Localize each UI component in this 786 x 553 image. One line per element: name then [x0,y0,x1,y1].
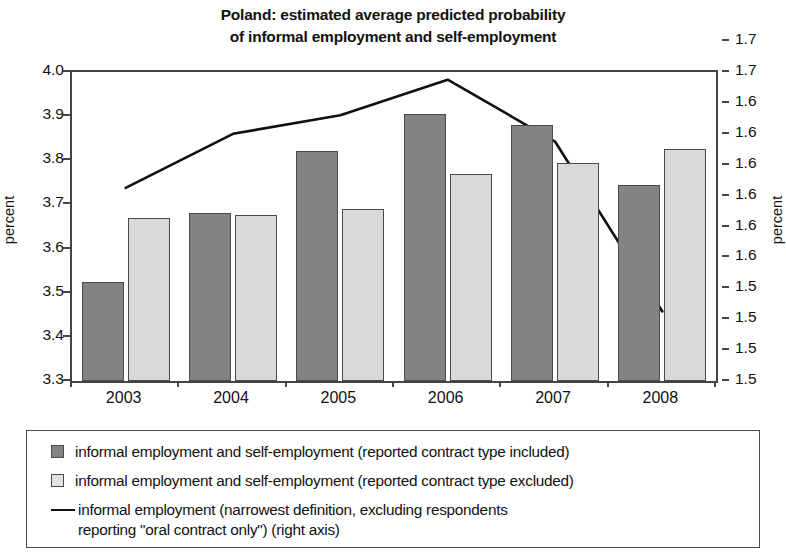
y-tick-label-left: 3.7 [20,195,64,209]
y-tick-label-left: 4.0 [20,63,64,77]
legend-label-narrowest-line-1: informal employment (narrowest definitio… [78,501,508,518]
y-tick-mark-right [722,163,729,165]
bar-2006-series-2 [450,174,492,381]
y-tick-mark-right [722,255,729,257]
y-tick-mark-left [63,202,70,204]
plot-area [70,70,718,383]
x-tick-label-2005: 2005 [278,389,398,407]
y-tick-mark-left [63,335,70,337]
legend-item-contract-excluded: informal employment and self-employment … [51,471,574,491]
y-tick-mark-left [63,158,70,160]
x-tick-mark [70,381,72,387]
bar-2007-series-2 [557,163,599,382]
y-axis-left-ticks: 3.33.43.53.63.73.83.94.0 [14,70,64,383]
legend-swatch-dark-icon [51,445,64,458]
y-tick-label-right: 1.6 [735,125,779,139]
legend-swatch-light-icon [51,474,64,487]
y-tick-label-right: 1.6 [735,187,779,201]
x-tick-mark [392,381,394,387]
legend-label-contract-excluded: informal employment and self-employment … [75,471,574,491]
x-tick-label-2007: 2007 [493,389,613,407]
bar-2008-series-2 [664,149,706,381]
y-tick-mark-right [722,317,729,319]
y-tick-label-right: 1.5 [735,341,779,355]
x-tick-label-2006: 2006 [386,389,506,407]
bar-2005-series-1 [296,151,338,381]
chart-title-line-1: Poland: estimated average predicted prob… [221,6,566,23]
y-tick-label-left: 3.4 [20,328,64,342]
chart-legend: informal employment and self-employment … [26,430,760,548]
y-tick-label-left: 3.3 [20,372,64,386]
y-tick-label-right: 1.6 [735,156,779,170]
y-axis-right-ticks: 1.51.51.51.51.61.61.61.61.61.61.71.7 [724,70,768,383]
legend-item-narrowest-definition: informal employment (narrowest definitio… [51,500,508,540]
legend-label-contract-included: informal employment and self-employment … [75,442,569,462]
x-tick-mark [607,381,609,387]
plot-inner [72,72,716,381]
y-tick-mark-right [722,132,729,134]
legend-label-narrowest-definition: informal employment (narrowest definitio… [78,500,508,540]
x-tick-mark [285,381,287,387]
x-tick-label-2003: 2003 [64,389,184,407]
y-tick-mark-right [722,194,729,196]
bar-2007-series-1 [511,125,553,381]
y-tick-label-right: 1.5 [735,279,779,293]
bar-2003-series-2 [128,218,170,381]
bar-2003-series-1 [82,282,124,381]
x-tick-label-2004: 2004 [171,389,291,407]
bar-2005-series-2 [342,209,384,381]
y-tick-label-right: 1.7 [735,32,779,46]
x-tick-mark [177,381,179,387]
chart-figure: Poland: estimated average predicted prob… [0,0,786,553]
chart-title-line-2: of informal employment and self-employme… [0,26,786,48]
bar-2006-series-1 [404,114,446,381]
y-tick-label-left: 3.6 [20,240,64,254]
x-tick-mark [714,381,716,387]
y-tick-mark-left [63,291,70,293]
y-tick-label-right: 1.6 [735,94,779,108]
y-tick-mark-right [722,348,729,350]
y-tick-mark-left [63,114,70,116]
legend-label-narrowest-line-2: reporting "oral contract only") (right a… [78,521,340,538]
y-tick-mark-right [722,286,729,288]
y-tick-mark-left [63,379,70,381]
y-tick-label-right: 1.7 [735,63,779,77]
y-tick-mark-left [63,247,70,249]
legend-item-contract-included: informal employment and self-employment … [51,442,569,462]
y-tick-label-left: 3.9 [20,107,64,121]
legend-line-icon [51,503,75,516]
y-tick-mark-right [722,70,729,72]
chart-title: Poland: estimated average predicted prob… [0,4,786,48]
bar-2004-series-2 [235,215,277,381]
y-tick-mark-right [722,101,729,103]
bar-2004-series-1 [189,213,231,381]
y-tick-label-right: 1.6 [735,248,779,262]
y-tick-label-right: 1.5 [735,372,779,386]
bar-2008-series-1 [618,185,660,381]
x-tick-label-2008: 2008 [600,389,720,407]
y-tick-mark-right [722,379,729,381]
y-tick-label-left: 3.5 [20,284,64,298]
y-tick-mark-right [722,225,729,227]
x-tick-mark [499,381,501,387]
y-tick-label-right: 1.5 [735,310,779,324]
y-tick-mark-right [722,39,729,41]
y-tick-label-right: 1.6 [735,218,779,232]
y-tick-mark-left [63,70,70,72]
y-tick-label-left: 3.8 [20,151,64,165]
